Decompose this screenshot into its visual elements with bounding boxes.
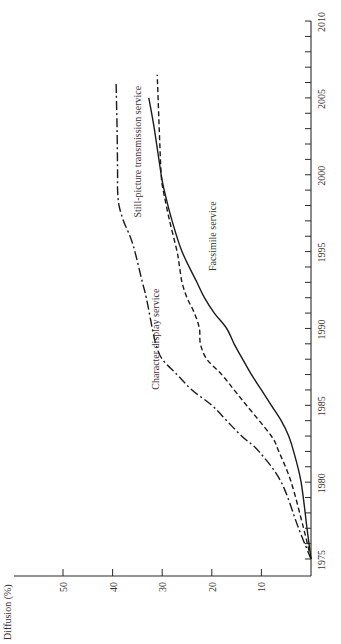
diffusion-tick-label: 30 — [157, 582, 168, 592]
year-tick-label: 2010 — [316, 12, 327, 32]
diffusion-tick-label: 40 — [108, 582, 119, 592]
chart-axes: 1975198019851990199520002005201010203040… — [14, 12, 327, 592]
facsimile-service-line — [149, 98, 311, 559]
diffusion-tick-label: 10 — [256, 582, 267, 592]
character-display-service-line — [116, 83, 311, 560]
year-tick-label: 1985 — [316, 396, 327, 416]
still-picture-transmission-service-label: Still-picture transmission service — [132, 85, 143, 217]
y-axis-title: Diffusion (%) — [2, 584, 14, 640]
still-picture-transmission-service-line — [157, 75, 311, 559]
diffusion-tick-label: 20 — [207, 582, 218, 592]
chart-series — [116, 75, 311, 559]
diffusion-tick-label: 50 — [58, 582, 69, 592]
year-tick-label: 2005 — [316, 89, 327, 109]
diffusion-chart: 1975198019851990199520002005201010203040… — [0, 0, 341, 644]
year-tick-label: 1980 — [316, 473, 327, 493]
year-tick-label: 1975 — [316, 550, 327, 570]
year-tick-label: 1995 — [316, 243, 327, 263]
year-tick-label: 1990 — [316, 319, 327, 339]
character-display-service-label: Character display service — [150, 288, 161, 390]
year-tick-label: 2000 — [316, 166, 327, 186]
facsimile-service-label: Facsimile service — [207, 201, 218, 271]
series-labels: Still-picture transmission serviceFacsim… — [132, 85, 217, 389]
